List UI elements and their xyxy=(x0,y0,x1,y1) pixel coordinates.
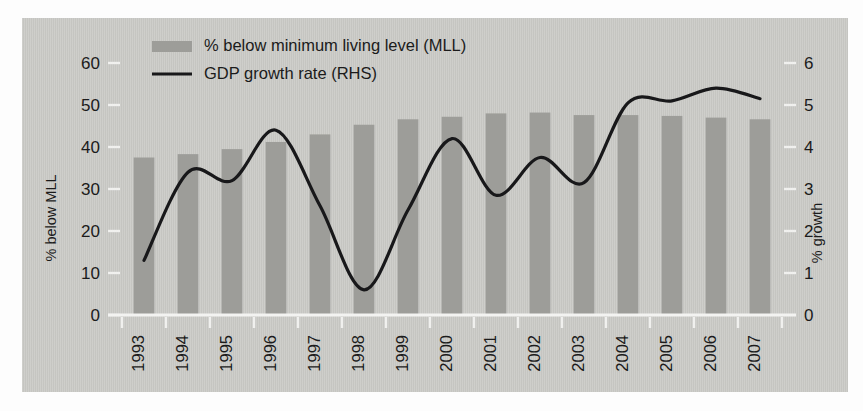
bar-1994 xyxy=(178,154,199,315)
right-tick-label-3: 3 xyxy=(804,180,813,199)
x-tick-label-1993: 1993 xyxy=(129,335,147,372)
x-tick-label-1994: 1994 xyxy=(173,335,191,372)
left-tick-label-0: 0 xyxy=(91,306,100,325)
x-tick-label-2003: 2003 xyxy=(569,335,587,372)
bar-2001 xyxy=(486,113,507,315)
legend-label-1: % below minimum living level (MLL) xyxy=(204,36,466,54)
x-tick-label-1999: 1999 xyxy=(393,335,411,372)
legend-swatch-bar xyxy=(152,41,192,52)
legend-label-2: GDP growth rate (RHS) xyxy=(204,64,377,82)
x-tick-label-1996: 1996 xyxy=(261,335,279,372)
bar-series xyxy=(134,113,771,315)
right-axis-title: % growth xyxy=(809,203,825,263)
x-tick-label-2006: 2006 xyxy=(701,335,719,372)
bar-2007 xyxy=(750,119,771,315)
x-tick-label-1998: 1998 xyxy=(349,335,367,372)
chart-plot-area: 0102030405060 0123456 199319941995199619… xyxy=(22,18,848,392)
x-tick-label-2000: 2000 xyxy=(437,335,455,372)
left-tick-label-10: 10 xyxy=(81,264,100,283)
right-tick-label-4: 4 xyxy=(804,138,813,157)
left-tick-label-30: 30 xyxy=(81,180,100,199)
bar-2002 xyxy=(530,113,551,315)
left-tick-label-60: 60 xyxy=(81,54,100,73)
x-tick-label-2004: 2004 xyxy=(613,335,631,372)
right-tick-label-6: 6 xyxy=(804,54,813,73)
chart-panel: 0102030405060 0123456 199319941995199619… xyxy=(22,18,848,392)
left-axis-title: % below MLL xyxy=(43,174,59,261)
right-tick-label-5: 5 xyxy=(804,96,813,115)
right-tick-label-0: 0 xyxy=(804,306,813,325)
x-tick-label-2002: 2002 xyxy=(525,335,543,372)
left-tick-label-50: 50 xyxy=(81,96,100,115)
x-tick-label-2001: 2001 xyxy=(481,335,499,372)
chart-legend: % below minimum living level (MLL)GDP gr… xyxy=(152,36,466,82)
chart-figure: 0102030405060 0123456 199319941995199619… xyxy=(0,0,863,411)
left-tick-label-20: 20 xyxy=(81,222,100,241)
bar-1999 xyxy=(398,119,419,315)
bar-1993 xyxy=(134,158,155,316)
bar-2006 xyxy=(706,118,727,315)
bottom-axis: 1993199419951996199719981999200020012002… xyxy=(122,317,782,372)
bar-2004 xyxy=(618,115,639,315)
x-tick-label-2007: 2007 xyxy=(745,335,763,372)
right-axis: 0123456 xyxy=(784,54,813,325)
x-tick-label-1997: 1997 xyxy=(305,335,323,372)
x-tick-label-1995: 1995 xyxy=(217,335,235,372)
bar-2003 xyxy=(574,115,595,315)
bar-2000 xyxy=(442,117,463,315)
bar-1996 xyxy=(266,142,287,315)
left-tick-label-40: 40 xyxy=(81,138,100,157)
x-tick-label-2005: 2005 xyxy=(657,335,675,372)
bar-2005 xyxy=(662,116,683,315)
right-tick-label-1: 1 xyxy=(804,264,813,283)
